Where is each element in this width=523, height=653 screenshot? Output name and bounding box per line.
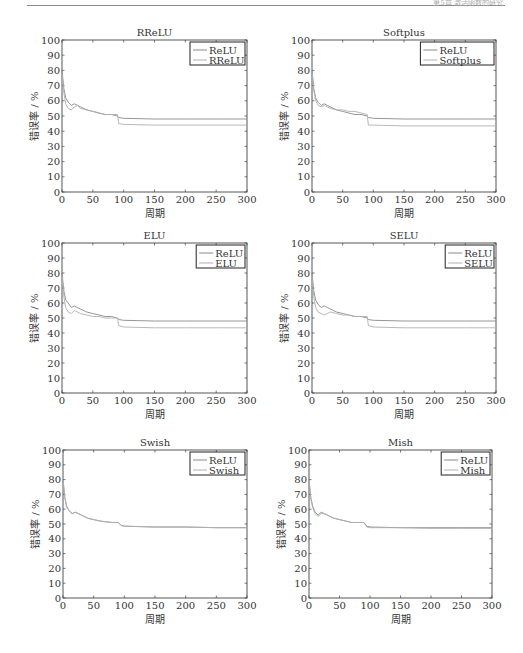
y-tick-label: 80 [48,474,61,485]
y-axis-label: 错误率 / % [28,293,40,342]
chart-title: RReLU [137,27,173,38]
y-tick-label: 100 [42,445,61,456]
chart-legend: ReLUELU [196,245,245,269]
chart-legend: ReLUSwish [190,452,245,476]
chart-panel-mish: Mish010203040506070809010005010015020025… [275,437,502,625]
x-tick-label: 0 [309,395,315,406]
y-axis-label: 错误率 / % [278,91,290,140]
x-tick-label: 50 [87,600,100,611]
y-tick-label: 30 [294,548,307,559]
y-tick-label: 50 [294,519,307,530]
y-tick-label: 10 [294,578,307,589]
y-tick-label: 40 [47,328,60,339]
x-tick-label: 250 [452,600,471,611]
chart-title: SELU [390,230,419,241]
y-tick-label: 30 [297,343,310,354]
x-axis-label: 周期 [145,409,165,420]
series-line-relu [309,480,492,528]
legend-entry: Softplus [439,55,481,66]
x-tick-label: 200 [425,194,444,205]
y-tick-label: 90 [297,50,310,61]
y-axis-label: 错误率 / % [275,499,287,548]
chart-panel-elu: ELU0102030405060708090100050100150200250… [28,230,257,420]
y-tick-label: 60 [294,504,307,515]
x-tick-label: 50 [86,395,99,406]
y-tick-label: 40 [297,328,310,339]
series-line-selu [312,276,496,328]
chart-legend: ReLURReLU [190,42,245,66]
y-tick-label: 70 [297,283,310,294]
y-tick-label: 60 [297,298,310,309]
y-tick-label: 90 [47,50,60,61]
y-tick-label: 50 [297,111,310,122]
y-tick-label: 60 [47,95,60,106]
x-tick-label: 0 [309,194,315,205]
series-line-relu [63,480,247,528]
y-tick-label: 10 [47,373,60,384]
x-tick-label: 150 [145,395,164,406]
y-tick-label: 70 [297,80,310,91]
y-tick-label: 10 [48,578,61,589]
x-tick-label: 150 [394,194,413,205]
y-tick-label: 70 [48,489,61,500]
y-tick-label: 70 [47,80,60,91]
x-tick-label: 100 [114,395,133,406]
chart-panel-softplus: Softplus01020304050607080901000501001502… [278,27,506,219]
series-line-relu [312,70,496,119]
chart-panel-rrelu: RReLU01020304050607080901000501001502002… [28,27,257,219]
y-tick-label: 20 [48,563,61,574]
x-tick-label: 100 [364,395,383,406]
y-axis-label: 错误率 / % [29,499,41,548]
x-tick-label: 100 [115,600,134,611]
y-tick-label: 70 [47,283,60,294]
chart-panel-selu: SELU010203040506070809010005010015020025… [278,230,506,420]
y-tick-label: 70 [294,489,307,500]
y-tick-label: 60 [297,95,310,106]
legend-entry: Swish [209,465,240,476]
x-tick-label: 50 [86,194,99,205]
y-tick-label: 20 [297,156,310,167]
x-tick-label: 100 [360,600,379,611]
legend-entry: ELU [215,258,237,269]
x-tick-label: 0 [59,395,65,406]
x-tick-label: 300 [237,395,256,406]
x-tick-label: 50 [333,600,346,611]
series-line-elu [62,276,247,328]
x-tick-label: 300 [482,600,501,611]
y-tick-label: 90 [48,459,61,470]
x-tick-label: 200 [421,600,440,611]
y-tick-label: 100 [41,35,60,46]
x-tick-label: 250 [456,395,475,406]
y-tick-label: 20 [297,358,310,369]
x-tick-label: 300 [486,395,505,406]
y-tick-label: 100 [291,35,310,46]
x-tick-label: 250 [207,194,226,205]
x-tick-label: 200 [176,194,195,205]
y-tick-label: 40 [297,126,310,137]
x-tick-label: 150 [391,600,410,611]
y-tick-label: 60 [47,298,60,309]
y-tick-label: 30 [47,343,60,354]
chart-title: ELU [144,230,166,241]
y-axis-label: 错误率 / % [28,91,40,140]
x-axis-label: 周期 [391,614,411,625]
x-axis-label: 周期 [145,208,165,219]
y-tick-label: 30 [297,141,310,152]
legend-entry: RReLU [209,55,245,66]
x-tick-label: 250 [456,194,475,205]
x-tick-label: 200 [176,395,195,406]
y-tick-label: 90 [47,253,60,264]
y-tick-label: 30 [47,141,60,152]
x-axis-label: 周期 [394,409,414,420]
y-tick-label: 50 [47,111,60,122]
x-tick-label: 250 [207,395,226,406]
legend-entry: Mish [460,465,486,476]
y-tick-label: 40 [47,126,60,137]
series-line-relu [62,273,247,321]
y-tick-label: 100 [291,238,310,249]
x-tick-label: 150 [394,395,413,406]
chart-title: Softplus [383,27,425,38]
series-line-softplus [312,72,496,126]
x-tick-label: 0 [59,194,65,205]
series-line-mish [309,480,492,529]
